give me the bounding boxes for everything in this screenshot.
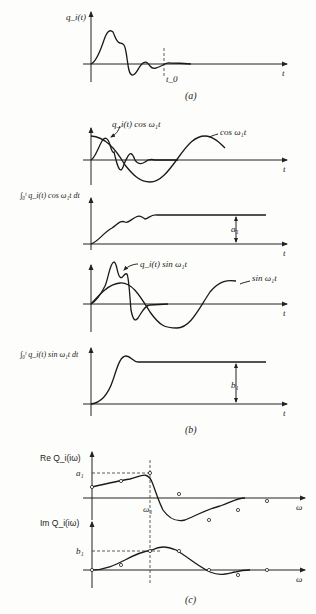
cos-curve: [91, 136, 225, 182]
x-axis-label: t: [283, 408, 286, 418]
b1-level-label: b₁: [76, 546, 84, 556]
caption-a: (a): [185, 90, 197, 102]
panel-b-plot1: q_i(t) cos ω₁t cos ω₁t t: [83, 119, 287, 185]
panel-b-plot2: a₁ ∫₀ᵗ q_i(t) cos ω₁t dt t: [19, 191, 287, 258]
panel-b-plot3: q_i(t) sin ω₁t sin ω₁t t: [83, 259, 287, 332]
x-axis-label: t: [283, 248, 286, 258]
x-axis-label: ω: [296, 574, 302, 584]
y-axis-label: q_i(t): [66, 12, 86, 22]
a1-level-label: a₁: [76, 468, 84, 478]
y-axis-label: ∫₀ᵗ q_i(t) sin ω₁t dt: [19, 350, 79, 359]
a1-label: a₁: [231, 224, 239, 234]
panel-a: q_i(t) t t_0 (a): [66, 12, 287, 102]
fourier-transient-diagram: q_i(t) t t_0 (a) q_i(t) cos ω₁t cos ω₁t …: [0, 0, 316, 614]
panel-c-imag: Im Q_i(iω) b₁ ω (c): [40, 518, 305, 606]
transient-curve: [91, 31, 191, 75]
product-cos-curve: [91, 138, 178, 170]
x-axis-label: t: [283, 164, 286, 174]
panel-c-real: Re Q_i(iω) a₁ ω₁ ω: [40, 452, 305, 585]
y-axis-label: ∫₀ᵗ q_i(t) cos ω₁t dt: [19, 191, 80, 200]
sin-integral-curve: [91, 356, 266, 404]
sin-label: sin ω₁t: [252, 273, 277, 283]
x-axis-label: ω: [296, 502, 302, 512]
b1-label: b₁: [231, 380, 239, 390]
panel-b-plot4: b₁ ∫₀ᵗ q_i(t) sin ω₁t dt t (b): [19, 348, 287, 436]
caption-c: (c): [185, 594, 197, 606]
product-cos-label: q_i(t) cos ω₁t: [112, 119, 161, 129]
im-axis-label: Im Q_i(iω): [40, 518, 79, 528]
cos-integral-curve: [91, 215, 266, 244]
x-axis-label: t: [283, 308, 286, 318]
x-axis-label: t: [282, 68, 285, 78]
re-axis-label: Re Q_i(iω): [40, 453, 81, 463]
product-sin-label: q_i(t) sin ω₁t: [140, 259, 187, 269]
t0-label: t_0: [166, 74, 178, 84]
product-sin-curve: [91, 262, 168, 320]
omega1-label: ω₁: [143, 504, 152, 514]
caption-b: (b): [185, 424, 197, 436]
cos-label: cos ω₁t: [220, 127, 247, 137]
